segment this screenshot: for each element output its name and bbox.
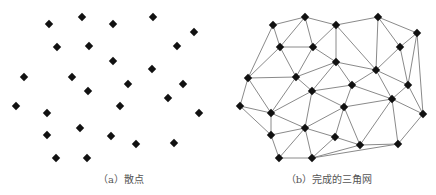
point-marker: [43, 131, 51, 139]
point-marker: [124, 80, 132, 88]
triangle-edge: [408, 33, 417, 85]
point-marker: [76, 124, 84, 132]
point-marker: [173, 42, 181, 50]
triangle-edge: [312, 91, 344, 107]
point-marker: [269, 21, 277, 29]
point-marker: [148, 65, 156, 73]
point-marker: [149, 13, 157, 21]
triangle-edge: [273, 17, 305, 25]
point-marker: [109, 20, 117, 28]
triangle-edge: [305, 91, 312, 128]
triangle-edge: [296, 47, 313, 77]
point-marker: [340, 103, 348, 111]
triangle-edge: [336, 17, 378, 25]
triangle-edge: [313, 25, 336, 47]
point-marker: [85, 42, 93, 50]
point-marker: [374, 13, 382, 21]
caption-b: （b）完成的三角网: [286, 171, 372, 186]
triangle-edge: [392, 99, 423, 114]
triangle-edge: [400, 47, 408, 85]
triangle-edge: [376, 17, 378, 70]
point-marker: [109, 57, 117, 65]
triangle-edge: [392, 99, 398, 144]
triangle-edge: [352, 70, 376, 85]
triangle-edge: [248, 77, 296, 78]
triangle-edge: [240, 106, 271, 113]
point-marker: [179, 80, 187, 88]
triangle-edge: [344, 99, 392, 107]
caption-a: （a）散点: [98, 171, 144, 186]
point-marker: [348, 81, 356, 89]
triangle-edge: [305, 128, 335, 137]
panel-a-scatter-points: [12, 13, 203, 162]
triangle-edge: [305, 17, 336, 25]
point-marker: [20, 73, 28, 81]
point-marker: [84, 87, 92, 95]
triangle-edge: [248, 78, 271, 113]
triangle-edge: [312, 85, 352, 91]
triangle-edge: [417, 33, 423, 114]
triangle-edge: [248, 25, 273, 78]
triangle-edge: [398, 114, 423, 144]
point-marker: [164, 94, 172, 102]
point-marker: [53, 43, 61, 51]
triangle-edge: [296, 77, 312, 91]
point-marker: [45, 20, 53, 28]
point-marker: [107, 132, 115, 140]
triangle-edge: [240, 78, 248, 106]
triangle-edge: [271, 135, 279, 158]
point-marker: [52, 154, 60, 162]
point-marker: [68, 73, 76, 81]
triangle-edge: [335, 137, 360, 145]
triangle-edge: [305, 17, 313, 47]
point-marker: [83, 154, 91, 162]
triangle-edge: [273, 25, 280, 47]
triangle-edge: [376, 47, 400, 70]
triangle-edge: [344, 85, 352, 107]
point-marker: [43, 109, 51, 117]
triangle-edge: [360, 99, 392, 145]
point-marker: [12, 102, 20, 110]
triangle-edge: [280, 47, 296, 77]
point-marker: [132, 140, 140, 148]
point-marker: [170, 139, 178, 147]
point-marker: [356, 141, 364, 149]
point-marker: [195, 109, 203, 117]
triangle-edge: [280, 17, 305, 47]
point-marker: [267, 109, 275, 117]
point-marker: [190, 28, 198, 36]
triangle-edge: [392, 85, 408, 99]
point-marker: [116, 102, 124, 110]
triangle-edge: [248, 47, 280, 78]
triangle-edge: [271, 77, 296, 113]
triangle-edge: [305, 128, 312, 158]
point-marker: [78, 13, 86, 21]
figure: [0, 0, 436, 195]
triangle-edge: [271, 91, 312, 113]
triangle-edge: [344, 107, 360, 145]
triangle-edge: [336, 62, 352, 85]
triangle-edge: [271, 113, 305, 128]
triangle-edge: [240, 106, 271, 135]
triangle-edge: [313, 47, 336, 62]
triangle-edge: [376, 70, 408, 85]
